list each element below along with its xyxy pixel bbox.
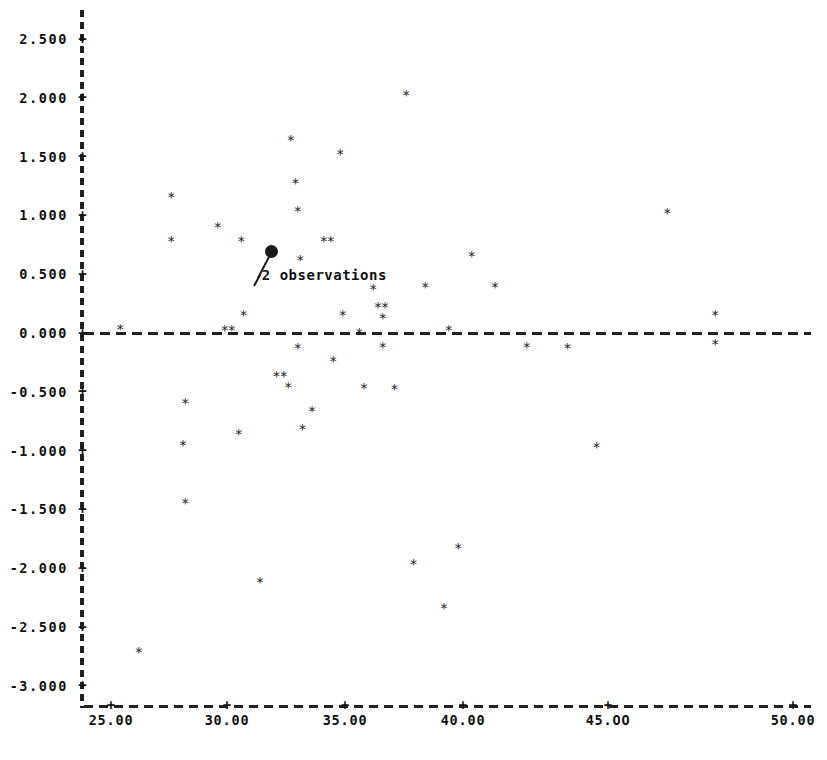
y-tick-mark: +2.000 xyxy=(74,92,91,103)
data-point: * xyxy=(233,429,244,440)
x-tick-label: 30.00 xyxy=(205,714,250,727)
y-tick-mark: +-1.500 xyxy=(74,504,91,515)
data-point: * xyxy=(377,342,388,353)
data-point: * xyxy=(377,313,388,324)
data-point: * xyxy=(354,328,365,339)
y-tick-label: -1.000 xyxy=(10,445,68,456)
data-point: * xyxy=(358,383,369,394)
y-tick-mark: +1.000 xyxy=(74,210,91,221)
x-tick-mark: +25.00 xyxy=(104,699,119,712)
data-point: * xyxy=(401,90,412,101)
y-tick-mark: +-1.000 xyxy=(74,445,91,456)
data-point: * xyxy=(295,255,306,266)
data-point: * xyxy=(115,324,126,335)
y-tick-label: -2.500 xyxy=(10,622,68,633)
x-tick-label: 35.00 xyxy=(323,714,368,727)
x-tick-mark: +30.00 xyxy=(220,699,235,712)
y-axis-line xyxy=(80,10,84,708)
data-point: * xyxy=(177,440,188,451)
x-tick-label: 40.00 xyxy=(441,714,486,727)
data-point: * xyxy=(420,282,431,293)
data-point: * xyxy=(290,178,301,189)
data-point: * xyxy=(297,424,308,435)
y-tick-label: 0.500 xyxy=(19,269,68,280)
x-tick-label: 25.00 xyxy=(89,714,134,727)
data-point: * xyxy=(368,284,379,295)
data-point: * xyxy=(439,603,450,614)
y-tick-label: -0.500 xyxy=(10,386,68,397)
data-point: * xyxy=(292,343,303,354)
y-tick-mark: +-3.000 xyxy=(74,680,91,691)
data-point: * xyxy=(325,236,336,247)
data-point: * xyxy=(337,310,348,321)
y-tick-mark: +2.500 xyxy=(74,34,91,45)
data-point: * xyxy=(285,135,296,146)
y-tick-mark: +0.500 xyxy=(74,269,91,280)
data-point: * xyxy=(662,208,673,219)
data-point: * xyxy=(166,236,177,247)
data-point: * xyxy=(306,406,317,417)
y-tick-mark: +-2.000 xyxy=(74,563,91,574)
y-tick-mark: +-2.500 xyxy=(74,622,91,633)
data-point: * xyxy=(389,384,400,395)
data-point: * xyxy=(283,382,294,393)
y-tick-label: 0.000 xyxy=(19,328,68,339)
data-point: * xyxy=(443,325,454,336)
x-tick-label: 45.OO xyxy=(586,714,631,727)
x-tick-mark: +35.00 xyxy=(338,699,353,712)
x-tick-mark: +40.00 xyxy=(456,699,471,712)
data-point: * xyxy=(166,192,177,203)
data-point: * xyxy=(489,282,500,293)
data-point: * xyxy=(133,647,144,658)
x-tick-mark: +50.00 xyxy=(786,699,801,712)
y-tick-label: 1.000 xyxy=(19,210,68,221)
data-point: * xyxy=(238,310,249,321)
x-tick-label: 50.00 xyxy=(771,714,816,727)
data-point: * xyxy=(236,236,247,247)
scatter-plot: +2.500+2.000+1.500+1.000+0.500+0.000+-0.… xyxy=(0,0,827,760)
data-point: * xyxy=(521,342,532,353)
data-point: * xyxy=(226,325,237,336)
data-point: * xyxy=(408,559,419,570)
data-point: * xyxy=(328,356,339,367)
data-point: * xyxy=(180,398,191,409)
x-tick-mark: +45.OO xyxy=(601,699,616,712)
data-point: * xyxy=(180,498,191,509)
data-point: * xyxy=(591,442,602,453)
y-tick-label: 2.000 xyxy=(19,92,68,103)
annotation-label: 2 observations xyxy=(262,267,387,283)
data-point: * xyxy=(710,339,721,350)
data-point: * xyxy=(255,577,266,588)
data-point: * xyxy=(453,543,464,554)
y-tick-label: -2.000 xyxy=(10,563,68,574)
x-axis-line xyxy=(84,705,811,708)
y-tick-mark: +1.500 xyxy=(74,151,91,162)
y-tick-label: 2.500 xyxy=(19,34,68,45)
data-point: * xyxy=(292,206,303,217)
y-tick-mark: +0.000 xyxy=(74,328,91,339)
y-tick-mark: +-0.500 xyxy=(74,386,91,397)
data-point: * xyxy=(466,251,477,262)
y-tick-label: -3.000 xyxy=(10,680,68,691)
y-tick-label: 1.500 xyxy=(19,151,68,162)
data-point: * xyxy=(212,222,223,233)
data-point: * xyxy=(335,149,346,160)
data-point: * xyxy=(710,310,721,321)
y-tick-label: -1.500 xyxy=(10,504,68,515)
data-point: * xyxy=(562,343,573,354)
